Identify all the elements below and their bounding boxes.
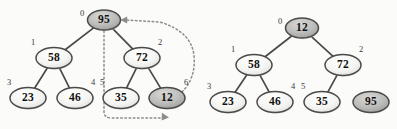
tree-node-46[interactable]: 46 — [57, 88, 94, 110]
tree-node-95[interactable]: 95 — [353, 92, 390, 114]
tree-edge-L0-L2 — [111, 27, 134, 50]
tree-node-58[interactable]: 58 — [236, 55, 273, 77]
tree-edge-L0-L1 — [63, 26, 96, 51]
node-value-label: 58 — [48, 51, 60, 63]
node-index-label-5: 5 — [301, 81, 305, 91]
node-index-label-1: 1 — [231, 44, 235, 54]
tree-edge-R0-R2 — [310, 35, 335, 58]
node-value-label: 46 — [69, 91, 81, 103]
node-index-label-3: 3 — [207, 81, 211, 91]
tree-edge-R2-R5 — [328, 74, 338, 92]
tree-node-23[interactable]: 23 — [210, 92, 247, 114]
node-value-label: 12 — [296, 21, 308, 33]
node-value-label: 95 — [98, 13, 110, 25]
node-index-label-4: 4 — [291, 81, 296, 91]
swap-arrow-root-to-leaf-head — [162, 113, 169, 121]
tree-node-95[interactable]: 95 — [88, 10, 122, 31]
node-index-label-2: 2 — [158, 37, 162, 47]
tree-edge-R1-R4 — [260, 74, 270, 92]
node-index-label-0: 0 — [278, 16, 282, 26]
node-value-label: 95 — [365, 95, 377, 107]
tree-node-12[interactable]: 12 — [286, 18, 320, 39]
node-index-label-4: 4 — [91, 77, 96, 87]
tree-edge-L2-L6 — [148, 67, 161, 89]
node-index-label-0: 0 — [80, 8, 84, 18]
tree-node-12[interactable]: 12 — [149, 88, 186, 110]
node-value-label: 12 — [161, 91, 173, 103]
node-index-label-2: 2 — [359, 44, 363, 54]
node-index-label-3: 3 — [7, 77, 11, 87]
tree-edge-R1-R3 — [234, 74, 247, 93]
heap-swap-figure: 9558722346351212587223463595 01234560123… — [0, 0, 397, 129]
node-value-label: 72 — [337, 58, 349, 70]
tree-edge-L1-L3 — [34, 67, 48, 89]
tree-edge-L2-L5 — [126, 67, 137, 88]
tree-node-35[interactable]: 35 — [103, 88, 140, 110]
node-index-label-1: 1 — [31, 37, 35, 47]
diagram-canvas: 9558722346351212587223463595 01234560123… — [0, 0, 397, 129]
node-value-label: 23 — [222, 95, 234, 107]
node-value-label: 35 — [316, 95, 328, 107]
node-value-label: 72 — [136, 51, 148, 63]
node-value-label: 23 — [22, 91, 34, 103]
tree-node-72[interactable]: 72 — [325, 55, 362, 77]
tree-node-46[interactable]: 46 — [257, 92, 294, 114]
tree-node-23[interactable]: 23 — [10, 88, 47, 110]
tree-node-72[interactable]: 72 — [124, 48, 161, 70]
tree-edge-R0-R1 — [263, 34, 294, 58]
node-index-label-5: 5 — [100, 77, 104, 87]
tree-node-58[interactable]: 58 — [36, 48, 73, 70]
node-index-label-6: 6 — [184, 77, 188, 87]
node-value-label: 58 — [248, 58, 260, 70]
tree-edge-L1-L4 — [59, 67, 70, 88]
node-value-label: 35 — [115, 91, 127, 103]
node-value-label: 46 — [269, 95, 281, 107]
tree-nodes-layer: 9558722346351212587223463595 — [10, 10, 390, 114]
tree-node-35[interactable]: 35 — [304, 92, 341, 114]
